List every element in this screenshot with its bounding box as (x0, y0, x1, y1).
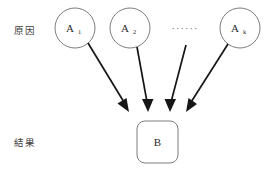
edge-a2-to-b (137, 47, 154, 112)
node-a1[interactable]: A 1 (55, 8, 95, 48)
node-a1-subscript: 1 (78, 28, 81, 35)
edge-a1-to-b (88, 43, 129, 112)
edge-a1-to-b-arrowhead (118, 98, 130, 112)
node-ak-label: A (231, 22, 239, 34)
edge-ellipsis-to-b (165, 45, 187, 112)
node-b-label: B (154, 136, 161, 148)
edge-a2-to-b-line (137, 47, 147, 103)
node-a2-label: A (121, 22, 129, 34)
edge-a2-to-b-arrowhead (142, 99, 154, 112)
node-a2-circle[interactable] (110, 8, 150, 48)
node-a2-subscript: 2 (133, 28, 136, 35)
node-b[interactable]: B (137, 121, 178, 163)
edge-ellipsis-to-b-arrowhead (165, 99, 177, 112)
edge-a1-to-b-line (88, 43, 125, 103)
ellipsis-more-causes: ······ (171, 23, 198, 34)
node-a2[interactable]: A 2 (110, 8, 150, 48)
node-a1-label: A (66, 22, 74, 34)
diagram-canvas: 原因 結果 A 1 A 2 ······ A k (0, 0, 268, 171)
cause-effect-diagram: 原因 結果 A 1 A 2 ······ A k (0, 0, 268, 171)
edge-ellipsis-to-b-line (171, 45, 186, 103)
row-label-cause: 原因 (14, 25, 35, 36)
node-a1-circle[interactable] (55, 8, 95, 48)
node-ak-circle[interactable] (220, 8, 260, 48)
edge-ak-to-b-line (191, 44, 229, 103)
row-label-effect: 結果 (14, 137, 35, 148)
edge-ak-to-b (186, 44, 228, 112)
node-ak[interactable]: A k (220, 8, 260, 48)
